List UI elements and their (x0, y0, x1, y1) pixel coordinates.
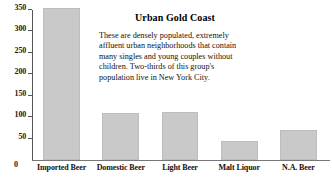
annotation-block: Urban Gold Coast These are densely popul… (99, 12, 251, 83)
x-axis-line (32, 160, 330, 161)
y-axis-tick-label: 150 (15, 89, 26, 98)
bar-chart-figure: 50100150200250300350 0 Imported BeerDome… (0, 0, 332, 185)
annotation-title: Urban Gold Coast (99, 12, 251, 24)
x-axis-category-label: Light Beer (150, 163, 209, 173)
x-axis-category-label: Domestic Beer (91, 163, 150, 173)
x-axis-category-label: Malt Liquor (210, 163, 269, 173)
bar (102, 113, 139, 160)
x-axis-category-label: Imported Beer (32, 163, 91, 173)
bar (221, 141, 258, 160)
bar (43, 8, 80, 160)
y-axis-tick-label: 250 (15, 46, 26, 55)
y-axis-tick-label: 200 (15, 67, 26, 76)
y-axis-tick-label: 100 (15, 110, 26, 119)
x-axis-category-label: N.A. Beer (269, 163, 328, 173)
y-axis-tick-label: 300 (15, 24, 26, 33)
y-axis-tick-label: 50 (18, 132, 26, 141)
bar (280, 130, 317, 160)
annotation-body: These are densely populated, extremely a… (99, 31, 251, 83)
bar (162, 112, 199, 160)
y-axis-zero-label: 0 (14, 160, 18, 169)
y-axis-tick-label: 350 (15, 3, 26, 12)
